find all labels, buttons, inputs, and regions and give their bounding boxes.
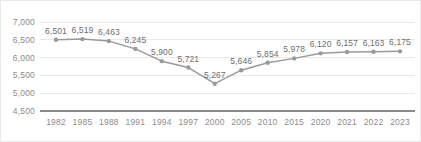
x-tick-label: 1988 [99, 117, 119, 127]
x-tick-label: 1994 [152, 117, 172, 127]
x-tick-label: 1985 [73, 117, 93, 127]
data-label: 6,501 [45, 26, 67, 36]
y-tick-label: 6,500 [1, 35, 35, 45]
data-label: 5,646 [230, 56, 252, 66]
gridlines [40, 22, 415, 93]
data-point-marker [54, 38, 58, 42]
data-point-marker [186, 65, 190, 69]
x-tick-label: 2005 [231, 117, 251, 127]
data-label: 6,519 [72, 25, 94, 35]
data-label: 6,463 [98, 27, 120, 37]
data-label: 5,854 [257, 49, 279, 59]
data-label: 5,978 [283, 44, 305, 54]
y-tick-label: 4,500 [1, 106, 35, 116]
data-label: 5,900 [151, 47, 173, 57]
data-point-marker [160, 59, 164, 63]
data-point-marker [265, 61, 269, 65]
x-tick-label: 2022 [364, 117, 384, 127]
data-label: 6,157 [336, 38, 358, 48]
x-tick-label: 2010 [258, 117, 278, 127]
data-point-marker [398, 49, 402, 53]
y-tick-label: 5,000 [1, 88, 35, 98]
data-label: 6,163 [363, 38, 385, 48]
x-tick-label: 1997 [178, 117, 198, 127]
x-tick-label: 2021 [337, 117, 357, 127]
data-point-marker [133, 47, 137, 51]
y-tick-label: 5,500 [1, 70, 35, 80]
data-label: 6,120 [310, 39, 332, 49]
x-tick-label: 1991 [126, 117, 146, 127]
x-tick-label: 2000 [205, 117, 225, 127]
data-point-marker [318, 51, 322, 55]
data-point-marker [371, 50, 375, 54]
x-tick-label: 2015 [284, 117, 304, 127]
data-point-marker [107, 39, 111, 43]
y-tick-label: 6,000 [1, 53, 35, 63]
data-label: 6,175 [389, 37, 411, 47]
data-point-marker [292, 56, 296, 60]
chart-container: 7,0006,5006,0005,5005,0004,500 198219851… [0, 0, 421, 142]
data-point-marker [80, 37, 84, 41]
x-tick-label: 1982 [46, 117, 66, 127]
data-point-marker [213, 81, 217, 85]
x-tick-label: 2020 [311, 117, 331, 127]
x-tick-label: 2023 [390, 117, 410, 127]
data-label: 6,245 [124, 35, 146, 45]
data-point-marker [345, 50, 349, 54]
data-label: 5,267 [204, 70, 226, 80]
data-label: 5,721 [177, 54, 199, 64]
data-point-marker [239, 68, 243, 72]
y-tick-label: 7,000 [1, 17, 35, 27]
